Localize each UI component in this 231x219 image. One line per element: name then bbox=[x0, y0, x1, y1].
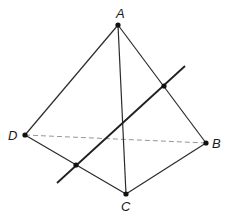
intersection-point-DC bbox=[73, 162, 78, 167]
edge-DB-hidden bbox=[25, 135, 206, 143]
label-B: B bbox=[212, 136, 221, 151]
edge-CB bbox=[126, 143, 206, 194]
label-D: D bbox=[8, 128, 17, 143]
vertex-D-point bbox=[22, 132, 27, 137]
intersection-point-AB bbox=[161, 83, 166, 88]
label-A: A bbox=[115, 6, 125, 21]
vertex-C-point bbox=[123, 191, 128, 196]
edge-AC bbox=[118, 25, 126, 194]
edge-AD bbox=[25, 25, 118, 135]
vertex-A-point bbox=[115, 22, 120, 27]
vertex-B-point bbox=[203, 140, 208, 145]
tetrahedron-diagram: A B C D bbox=[0, 0, 231, 219]
label-C: C bbox=[121, 199, 131, 214]
edge-AB bbox=[118, 25, 206, 143]
